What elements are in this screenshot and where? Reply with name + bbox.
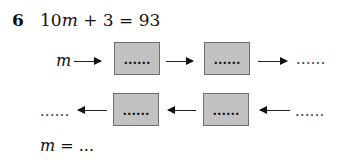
inverse-input-blank[interactable]: ...... [295,103,325,119]
right-arrow-icon [166,61,193,62]
equation-coefficient: 10 [40,10,62,30]
equation: 10m + 3 = 93 [40,10,160,30]
right-arrow-icon [74,61,101,62]
answer-blank[interactable]: = ... [55,136,94,155]
forward-operation-box-2[interactable]: ...... [204,42,250,75]
inverse-operation-box-1[interactable]: ...... [113,93,159,126]
left-arrow-icon [78,110,107,111]
forward-operation-box-1[interactable]: ...... [114,42,160,75]
answer-line: m = ... [40,136,94,155]
inverse-operation-box-2[interactable]: ...... [203,93,249,126]
inverse-output-blank[interactable]: ...... [40,103,70,119]
equation-variable: m [62,10,78,30]
forward-input-label: m [56,51,71,70]
left-arrow-icon [260,110,290,111]
forward-output-blank[interactable]: ...... [296,51,326,67]
answer-variable: m [40,136,55,155]
question-number: 6 [12,10,24,30]
left-arrow-icon [168,110,196,111]
right-arrow-icon [258,61,287,62]
equation-rest: + 3 = 93 [78,10,161,30]
